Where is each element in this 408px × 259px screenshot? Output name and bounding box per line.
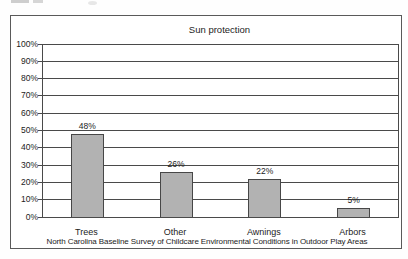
bar: [248, 179, 281, 217]
y-axis-tick: [38, 147, 43, 148]
category-label: Awnings: [220, 227, 308, 237]
bar-value-label: 26%: [151, 160, 201, 169]
y-axis-tick: [38, 217, 43, 218]
bar: [337, 208, 370, 217]
y-tick-label: 60%: [10, 109, 38, 118]
y-tick-label: 40%: [10, 143, 38, 152]
bar-value-label: 5%: [329, 196, 379, 205]
bar-value-label: 48%: [62, 122, 112, 131]
y-axis-tick: [38, 61, 43, 62]
plot-area: 0%10%20%30%40%50%60%70%80%90%100%48%26%2…: [42, 44, 399, 218]
y-tick-label: 80%: [10, 74, 38, 83]
y-axis-tick: [38, 165, 43, 166]
y-tick-label: 30%: [10, 161, 38, 170]
y-tick-label: 90%: [10, 57, 38, 66]
y-tick-label: 0%: [10, 213, 38, 222]
y-axis-tick: [38, 113, 43, 114]
page: Sun protection 0%10%20%30%40%50%60%70%80…: [0, 0, 408, 259]
y-axis-tick: [38, 182, 43, 183]
chart-title: Sun protection: [42, 25, 397, 35]
y-tick-label: 70%: [10, 91, 38, 100]
category-label: Arbors: [309, 227, 397, 237]
cropped-text-artifact: [33, 0, 43, 3]
gridline: [43, 44, 398, 45]
y-tick-label: 100%: [10, 40, 38, 49]
y-axis-tick: [38, 78, 43, 79]
y-tick-label: 10%: [10, 195, 38, 204]
y-tick-label: 20%: [10, 178, 38, 187]
y-axis-tick: [38, 95, 43, 96]
y-axis-tick: [38, 130, 43, 131]
gridline: [43, 78, 398, 79]
cropped-text-artifact: [88, 1, 97, 5]
gridline: [43, 95, 398, 96]
category-label: Trees: [42, 227, 130, 237]
y-tick-label: 50%: [10, 126, 38, 135]
cropped-text-artifact: [11, 0, 29, 3]
category-label: Other: [131, 227, 219, 237]
y-axis-tick: [38, 44, 43, 45]
chart-caption: North Carolina Baseline Survey of Childc…: [11, 237, 403, 246]
chart-frame: Sun protection 0%10%20%30%40%50%60%70%80…: [10, 15, 402, 249]
bar: [71, 134, 104, 217]
gridline: [43, 61, 398, 62]
gridline: [43, 113, 398, 114]
bar-value-label: 22%: [240, 167, 290, 176]
y-axis-tick: [38, 199, 43, 200]
bar: [160, 172, 193, 217]
